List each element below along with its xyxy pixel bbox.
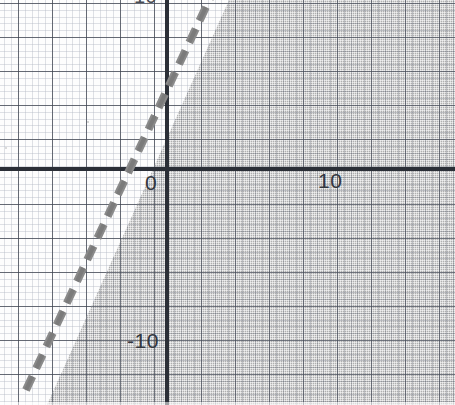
graph-canvas: 0 10 -10 10	[0, 0, 455, 405]
x-axis	[0, 167, 455, 171]
x-axis-label-0: 0	[145, 172, 157, 193]
y-axis	[165, 0, 169, 405]
y-axis-label-10: 10	[134, 0, 157, 6]
y-axis-label-neg-10: -10	[127, 330, 159, 351]
x-axis-label-10: 10	[318, 170, 342, 191]
shaded-solution-region	[0, 0, 455, 405]
